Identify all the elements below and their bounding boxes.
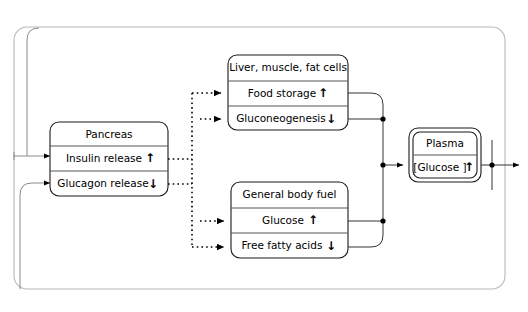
pancreas-row-1-arrow-down-icon: ↓	[148, 177, 158, 191]
liver-row-1-label: Gluconeogenesis	[236, 112, 326, 124]
flow-diagram: Pancreas Insulin release ↑ Glucagon rele…	[0, 0, 528, 312]
pancreas-row-1-label: Glucagon release	[57, 177, 148, 189]
plasma-row-0-arrow-up-icon: ↑	[464, 160, 474, 174]
junction-dot-lower	[380, 218, 385, 223]
diagram-canvas: Pancreas Insulin release ↑ Glucagon rele…	[0, 0, 528, 312]
liver-row-1-arrow-down-icon: ↓	[326, 112, 336, 126]
plasma-header-label: Plasma	[426, 137, 464, 149]
liver-row-0-label: Food storage	[248, 87, 316, 99]
liver-header-label: Liver, muscle, fat cells	[229, 61, 347, 73]
general-body-fuel-header-label: General body fuel	[243, 188, 337, 200]
input-curve-top-return	[27, 28, 39, 156]
general-body-fuel-row-1-label: Free fatty acids	[242, 239, 323, 251]
general-body-fuel-row-1-arrow-down-icon: ↓	[326, 239, 336, 253]
general-body-fuel-row-0-label: Glucose	[262, 214, 304, 226]
junction-dot-middle	[380, 162, 385, 167]
junction-dot-upper	[380, 116, 385, 121]
node-pancreas[interactable]: Pancreas Insulin release ↑ Glucagon rele…	[50, 122, 168, 196]
node-liver-muscle-fat[interactable]: Liver, muscle, fat cells Food storage ↑ …	[228, 55, 348, 130]
liver-row-0-arrow-up-icon: ↑	[318, 86, 328, 100]
node-plasma[interactable]: Plasma [Glucose ] ↑	[409, 128, 481, 182]
pancreas-row-0-arrow-up-icon: ↑	[145, 151, 155, 165]
general-body-fuel-row-0-arrow-up-icon: ↑	[308, 213, 318, 227]
solid-link-food-storage-out	[348, 93, 383, 119]
node-general-body-fuel[interactable]: General body fuel Glucose ↑ Free fatty a…	[231, 182, 348, 258]
plasma-row-0-label: [Glucose ]	[413, 161, 466, 173]
solid-link-free-fatty-acids-out	[348, 221, 383, 247]
junction-dot-plasma-output	[489, 162, 494, 167]
pancreas-row-0-label: Insulin release	[66, 152, 142, 164]
input-curve-glucagon	[20, 183, 50, 289]
pancreas-header-label: Pancreas	[85, 128, 132, 140]
